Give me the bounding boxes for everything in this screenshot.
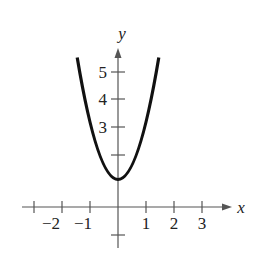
x-tick-label-1: 1 [142,214,151,233]
x-axis [22,201,232,213]
x-tick-label-neg1: −1 [74,214,92,233]
x-axis-arrow-icon [222,204,232,211]
y-axis [111,48,125,248]
y-axis-label: y [116,24,126,43]
x-tick-label-3: 3 [198,214,207,233]
x-tick-label-2: 2 [170,214,179,233]
y-axis-arrow-icon [115,48,122,58]
plot-svg: −2 −1 1 2 3 5 4 3 y x [0,0,265,261]
parabola-graph: −2 −1 1 2 3 5 4 3 y x [0,0,265,261]
x-axis-label: x [236,198,245,217]
y-tick-label-4: 4 [99,90,108,109]
y-tick-label-5: 5 [99,63,108,82]
y-tick-label-3: 3 [99,118,108,137]
x-tick-label-neg2: −2 [42,214,60,233]
